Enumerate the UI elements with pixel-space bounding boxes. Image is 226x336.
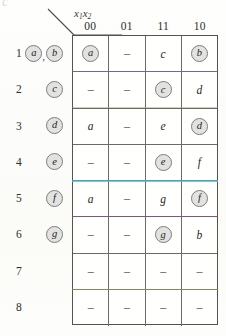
- table-cell-dash: –: [109, 72, 145, 107]
- row-number: 3: [16, 120, 22, 132]
- circled-state-tag: e: [46, 153, 63, 170]
- table-row: ––––: [73, 254, 217, 290]
- row-state-tags: d: [46, 117, 63, 134]
- circled-entry: b: [191, 45, 208, 62]
- table-row: a–gf: [73, 181, 217, 217]
- table-cell: g: [146, 181, 182, 216]
- transition-table-grid: a–cb––cda–ed––efa–gf––gb––––––––: [72, 35, 218, 325]
- table-row: ––ef: [73, 145, 217, 181]
- row-number: 7: [16, 265, 22, 277]
- cutoff-glyph: c: [2, 0, 8, 10]
- table-cell-dash: –: [73, 145, 109, 180]
- table-cell-dash: –: [73, 290, 109, 326]
- cell-letter: a: [88, 48, 93, 59]
- gutter-row: 3d: [0, 108, 72, 144]
- gutter-row: 8: [0, 289, 72, 325]
- cell-letter: b: [197, 48, 202, 59]
- row-state-tags: a,b: [25, 45, 63, 62]
- row-number: 5: [16, 192, 22, 204]
- table-cell: c: [146, 36, 182, 71]
- state-tag-letter: f: [53, 192, 56, 203]
- circled-entry: e: [155, 154, 172, 171]
- table-cell: f: [182, 145, 217, 180]
- state-tag-letter: d: [52, 120, 57, 131]
- circled-entry: c: [155, 81, 172, 98]
- scanned-page: c x1x2 00 01 11 10 1a,b2c3d4e5f6g78 a–cb…: [0, 0, 226, 336]
- row-label-gutter: 1a,b2c3d4e5f6g78: [0, 35, 72, 325]
- table-cell-dash: –: [182, 290, 217, 326]
- cell-letter: d: [197, 120, 202, 131]
- table-row: a–ed: [73, 109, 217, 145]
- table-row: ––cd: [73, 72, 217, 108]
- table-cell-dash: –: [109, 290, 145, 326]
- column-header-11: 11: [145, 20, 182, 32]
- circled-entry: a: [82, 45, 99, 62]
- circled-entry: g: [155, 226, 172, 243]
- table-cell-circled: f: [182, 181, 217, 216]
- row-number: 8: [16, 301, 22, 313]
- table-cell-dash: –: [109, 145, 145, 180]
- circled-state-tag: g: [46, 226, 63, 243]
- circled-state-tag: c: [46, 81, 63, 98]
- cell-letter: c: [161, 84, 166, 95]
- circled-state-tag: b: [46, 45, 63, 62]
- circled-entry: d: [191, 118, 208, 135]
- circled-state-tag: a: [25, 45, 42, 62]
- row-state-tags: e: [46, 153, 63, 170]
- gutter-row: 6g: [0, 216, 72, 252]
- row-state-tags: g: [46, 226, 63, 243]
- table-cell: d: [182, 72, 217, 107]
- cell-letter: e: [161, 157, 166, 168]
- table-row: ––––: [73, 290, 217, 326]
- circled-state-tag: f: [46, 190, 63, 207]
- table-cell: e: [146, 109, 182, 144]
- state-tag-letter: b: [52, 47, 57, 58]
- table-row: a–cb: [73, 36, 217, 72]
- circled-state-tag: d: [46, 117, 63, 134]
- table-cell-dash: –: [109, 254, 145, 289]
- row-state-tags: f: [46, 190, 63, 207]
- cell-letter: f: [198, 193, 201, 204]
- state-tag-letter: g: [52, 229, 57, 240]
- table-cell-dash: –: [146, 254, 182, 289]
- column-header-01: 01: [109, 20, 146, 32]
- row-state-tags: c: [46, 81, 63, 98]
- circled-entry: f: [191, 190, 208, 207]
- table-cell-dash: –: [109, 109, 145, 144]
- row-number: 1: [16, 47, 22, 59]
- table-cell-dash: –: [73, 254, 109, 289]
- row-number: 2: [16, 83, 22, 95]
- column-header-00: 00: [72, 20, 109, 32]
- state-tag-letter: a: [31, 47, 36, 58]
- table-cell-circled: e: [146, 145, 182, 180]
- table-cell: a: [73, 109, 109, 144]
- table-cell-circled: a: [73, 36, 109, 71]
- gutter-row: 5f: [0, 180, 72, 216]
- table-cell-dash: –: [109, 36, 145, 71]
- table-cell-dash: –: [146, 290, 182, 326]
- table-cell-dash: –: [109, 217, 145, 252]
- cell-letter: g: [161, 229, 166, 240]
- row-number: 6: [16, 228, 22, 240]
- state-tag-letter: e: [52, 156, 57, 167]
- column-header-10: 10: [182, 20, 219, 32]
- table-cell-dash: –: [73, 72, 109, 107]
- axis-label-x1x2: x1x2: [74, 7, 91, 21]
- table-cell-dash: –: [73, 217, 109, 252]
- table-row: ––gb: [73, 217, 217, 253]
- gutter-row: 4e: [0, 144, 72, 180]
- gutter-row: 7: [0, 253, 72, 289]
- column-header-row: 00 01 11 10: [72, 20, 218, 32]
- table-cell-dash: –: [182, 254, 217, 289]
- state-tag-letter: c: [52, 84, 57, 95]
- gutter-row: 2c: [0, 71, 72, 107]
- table-cell: a: [73, 181, 109, 216]
- row-number: 4: [16, 156, 22, 168]
- table-cell: b: [182, 217, 217, 252]
- gutter-row: 1a,b: [0, 35, 72, 71]
- table-cell-circled: c: [146, 72, 182, 107]
- state-tag-separator: ,: [42, 50, 45, 62]
- table-cell-dash: –: [109, 181, 145, 216]
- table-cell-circled: d: [182, 109, 217, 144]
- table-cell-circled: g: [146, 217, 182, 252]
